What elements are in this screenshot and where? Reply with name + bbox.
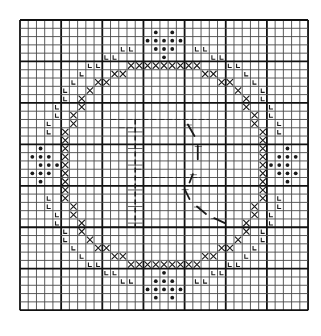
l-stitch-icon	[72, 80, 75, 84]
dot-stitch-icon	[30, 155, 34, 159]
cross-stitch-x-icon	[243, 228, 249, 234]
l-stitch-icon	[121, 47, 124, 51]
cross-stitch-x-icon	[227, 245, 233, 251]
cross-stitch-x-icon	[62, 187, 68, 193]
l-stitch-icon	[245, 254, 248, 258]
l-stitch-icon	[228, 64, 231, 68]
l-stitch-icon	[220, 55, 223, 59]
l-stitch-icon	[237, 263, 240, 267]
dot-stitch-icon	[162, 288, 166, 292]
cross-stitch-x-icon	[202, 253, 208, 259]
cross-stitch-x-icon	[144, 62, 150, 68]
cross-stitch-x-icon	[186, 261, 192, 267]
dot-stitch-icon	[277, 163, 281, 167]
cross-stitch-x-icon	[136, 261, 142, 267]
cross-stitch-x-icon	[79, 104, 85, 110]
l-stitch-icon	[228, 263, 231, 267]
dot-stitch-icon	[286, 147, 290, 151]
l-stitch-icon	[97, 64, 100, 68]
dot-stitch-icon	[146, 39, 150, 43]
dot-stitch-icon	[39, 180, 43, 184]
dot-stitch-icon	[286, 163, 290, 167]
cross-stitch-x-icon	[260, 129, 266, 135]
l-stitch-icon	[212, 271, 215, 275]
cross-stitch-x-icon	[120, 253, 126, 259]
l-stitch-icon	[270, 105, 273, 109]
cross-stitch-x-icon	[194, 261, 200, 267]
dot-stitch-icon	[154, 31, 158, 35]
dot-stitch-icon	[39, 147, 43, 151]
dot-stitch-icon	[162, 55, 166, 59]
cross-stitch-x-icon	[260, 162, 266, 168]
l-stitch-icon	[47, 196, 50, 200]
cross-stitch-x-icon	[79, 220, 85, 226]
cross-stitch-x-icon	[161, 62, 167, 68]
cross-stitch-x-icon	[62, 162, 68, 168]
cross-stitch-x-icon	[128, 62, 134, 68]
cross-stitch-x-icon	[210, 71, 216, 77]
dot-stitch-icon	[162, 47, 166, 51]
l-stitch-icon	[245, 72, 248, 76]
cross-stitch-x-icon	[112, 253, 118, 259]
dot-stitch-icon	[162, 271, 166, 275]
cross-stitch-x-icon	[62, 129, 68, 135]
cross-stitch-x-icon	[169, 62, 175, 68]
dot-stitch-icon	[179, 39, 183, 43]
cross-stitch-x-icon	[251, 203, 257, 209]
l-stitch-icon	[56, 113, 59, 117]
l-stitch-icon	[105, 271, 108, 275]
l-stitch-icon	[47, 122, 50, 126]
dot-stitch-icon	[294, 171, 298, 175]
l-stitch-icon	[64, 97, 67, 101]
cross-stitch-x-icon	[243, 96, 249, 102]
dot-stitch-icon	[154, 296, 158, 300]
l-stitch-icon	[64, 238, 67, 242]
cross-stitch-x-icon	[251, 112, 257, 118]
cross-stitch-x-icon	[243, 220, 249, 226]
dot-stitch-icon	[154, 279, 158, 283]
dot-stitch-icon	[47, 163, 51, 167]
l-stitch-icon	[88, 64, 91, 68]
dot-stitch-icon	[286, 171, 290, 175]
dot-stitch-icon	[277, 155, 281, 159]
l-stitch-icon	[113, 55, 116, 59]
dot-stitch-icon	[170, 288, 174, 292]
l-accent-stitches	[47, 47, 281, 283]
dot-stitch-icon	[39, 155, 43, 159]
cross-stitch-x-icon	[243, 104, 249, 110]
cross-stitch-x-icon	[202, 71, 208, 77]
cross-stitch-x-icon	[70, 212, 76, 218]
l-stitch-icon	[105, 55, 108, 59]
l-stitch-icon	[278, 122, 281, 126]
cross-stitch-x-icon	[87, 237, 93, 243]
cross-stitch-x-icon	[161, 261, 167, 267]
cross-stitch-x-icon	[186, 62, 192, 68]
dot-stitch-icon	[154, 39, 158, 43]
l-stitch-icon	[97, 263, 100, 267]
l-stitch-icon	[80, 254, 83, 258]
cross-stitch-x-icon	[260, 154, 266, 160]
dot-stitch-icon	[170, 279, 174, 283]
dot-stitch-icon	[179, 288, 183, 292]
dot-stitch-icon	[47, 155, 51, 159]
l-stitch-icon	[253, 246, 256, 250]
l-stitch-icon	[121, 279, 124, 283]
cross-stitch-x-icon	[112, 71, 118, 77]
l-stitch-icon	[261, 97, 264, 101]
cross-stitch-x-icon	[70, 203, 76, 209]
l-stitch-icon	[195, 47, 198, 51]
l-stitch-icon	[278, 196, 281, 200]
cross-stitch-x-icon	[177, 261, 183, 267]
dot-stitch-icon	[286, 180, 290, 184]
dot-stitch-icon	[146, 288, 150, 292]
l-stitch-icon	[47, 130, 50, 134]
cross-stitch-x-icon	[235, 87, 241, 93]
cross-stitch-x-icon	[177, 62, 183, 68]
stitch-grid	[20, 20, 308, 310]
dot-stitch-icon	[39, 163, 43, 167]
cross-stitch-x-icon	[70, 120, 76, 126]
dot-stitch-icon	[162, 39, 166, 43]
cross-stitch-x-icon	[79, 228, 85, 234]
cross-stitch-x-icon	[62, 137, 68, 143]
dot-stitch-icon	[269, 163, 273, 167]
